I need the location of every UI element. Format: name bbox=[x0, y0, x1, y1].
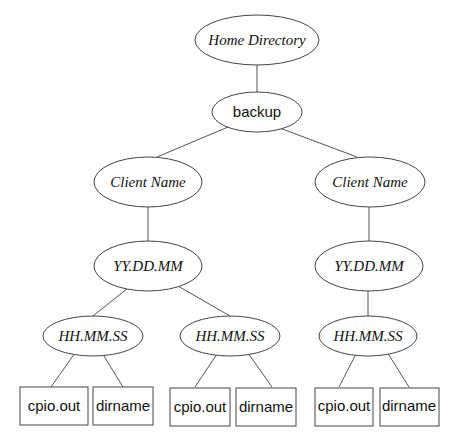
file-box-dirname-3: dirname bbox=[380, 388, 439, 426]
node-date-left: YY.DD.MM bbox=[94, 241, 202, 291]
file-label: dirname bbox=[96, 397, 150, 414]
file-label: cpio.out bbox=[174, 398, 227, 415]
node-label: YY.DD.MM bbox=[113, 258, 184, 274]
node-label: Client Name bbox=[110, 174, 186, 190]
file-box-cpio-out-2: cpio.out bbox=[170, 388, 230, 426]
file-label: dirname bbox=[239, 398, 293, 415]
edge-backup-client-right bbox=[277, 127, 357, 157]
file-box-dirname-1: dirname bbox=[93, 387, 153, 425]
file-box-cpio-out-1: cpio.out bbox=[20, 387, 88, 425]
node-home-directory: Home Directory bbox=[195, 15, 319, 65]
node-label: Home Directory bbox=[207, 32, 306, 48]
node-label: backup bbox=[233, 103, 281, 120]
file-label: cpio.out bbox=[28, 397, 81, 414]
file-label: cpio.out bbox=[318, 397, 371, 414]
node-backup: backup bbox=[212, 92, 302, 132]
node-label: HH.MM.SS bbox=[194, 328, 265, 344]
file-box-cpio-out-3: cpio.out bbox=[315, 388, 373, 426]
edge-time-3-file-3b bbox=[387, 352, 409, 387]
edge-time-3-file-3a bbox=[339, 352, 357, 387]
edge-date-left-time-2 bbox=[178, 286, 230, 316]
edge-time-1-file-1b bbox=[104, 356, 123, 387]
edge-time-2-file-2b bbox=[248, 353, 272, 387]
file-box-dirname-2: dirname bbox=[236, 388, 296, 426]
node-label: HH.MM.SS bbox=[57, 328, 128, 344]
edge-time-2-file-2a bbox=[195, 354, 217, 387]
node-client-name-right: Client Name bbox=[315, 157, 425, 207]
edge-time-1-file-1a bbox=[51, 353, 75, 387]
node-date-right: YY.DD.MM bbox=[315, 241, 423, 291]
node-label: HH.MM.SS bbox=[332, 328, 403, 344]
node-time-3: HH.MM.SS bbox=[319, 316, 417, 356]
node-label: Client Name bbox=[332, 174, 408, 190]
node-time-1: HH.MM.SS bbox=[43, 316, 143, 356]
edge-date-left-time-1 bbox=[93, 288, 128, 316]
node-time-2: HH.MM.SS bbox=[180, 316, 280, 356]
directory-tree-diagram: Home Directory backup Client Name Client… bbox=[0, 0, 458, 447]
node-label: YY.DD.MM bbox=[334, 258, 405, 274]
edge-backup-client-left bbox=[157, 127, 228, 157]
node-client-name-left: Client Name bbox=[94, 157, 202, 207]
file-label: dirname bbox=[382, 397, 436, 414]
